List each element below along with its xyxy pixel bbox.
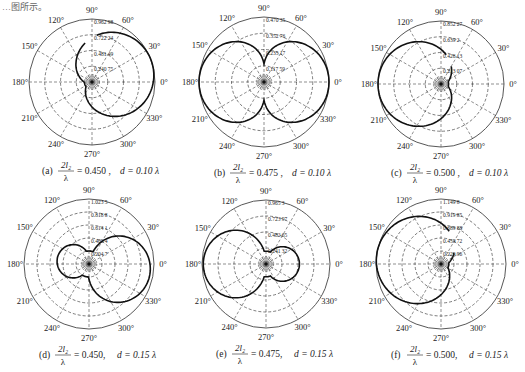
caption-value: = 0.450 ,: [77, 166, 111, 176]
ring-value-label: 0.639 2: [443, 37, 460, 43]
caption-prefix: (e): [216, 349, 227, 360]
angle-label: 300°: [294, 322, 310, 332]
angle-label: 300°: [469, 141, 485, 151]
grid-spoke: [57, 208, 90, 264]
caption-value: = 0.500,: [426, 350, 457, 360]
ring-value-label: 0.459 72: [443, 238, 463, 244]
angle-label: 270°: [81, 333, 97, 343]
angle-label: 210°: [192, 114, 208, 124]
angle-label: 270°: [433, 151, 449, 161]
angle-label: 60°: [122, 15, 134, 25]
angle-label: 300°: [470, 323, 486, 333]
ring-value-label: 1.149 8: [443, 199, 460, 205]
origin-dot: [262, 80, 266, 84]
grid-spoke: [409, 264, 442, 320]
angle-label: 210°: [369, 296, 385, 306]
angle-label: 120°: [396, 195, 412, 205]
angle-label: 120°: [221, 196, 237, 206]
grid-spoke: [92, 82, 124, 137]
ring-value-label: 0.409 4: [91, 238, 108, 244]
grid-spoke: [37, 82, 92, 114]
ring-value-label: 0.689 88: [443, 225, 463, 231]
angle-label: 240°: [221, 322, 237, 332]
grid-spoke: [385, 264, 441, 297]
angle-label: 210°: [22, 113, 38, 123]
ring-value-label: 0.723 97: [268, 216, 288, 222]
ring-value-label: 0.241 32: [268, 248, 288, 254]
angle-label: 90°: [435, 7, 447, 17]
ring-value-label: 1.023 5: [91, 199, 108, 205]
pattern-curve: [57, 236, 150, 302]
angle-label: 30°: [499, 222, 511, 232]
caption-fraction-numerator: 2l₂: [235, 343, 245, 353]
angle-label: 120°: [48, 15, 64, 25]
angle-label: 30°: [497, 43, 509, 53]
grid-spoke: [33, 264, 89, 297]
ring-value-label: 0.722 24: [94, 35, 114, 41]
origin-dot: [264, 262, 268, 266]
angle-label: 60°: [472, 195, 484, 205]
caption-fraction-numerator: 2l₂: [61, 160, 71, 170]
angle-label: 150°: [371, 43, 387, 53]
caption-spacing: d = 0.10 λ: [292, 168, 331, 178]
angle-label: 120°: [397, 17, 413, 27]
ring-value-label: 0.818 8: [91, 212, 108, 218]
origin-dot: [439, 82, 443, 86]
caption-fraction-denominator: λ: [236, 175, 241, 185]
caption-spacing: d = 0.10 λ: [120, 166, 159, 176]
angle-label: 60°: [471, 17, 483, 27]
grid-spoke: [386, 84, 441, 116]
ring-value-label: 0.852 27: [443, 21, 463, 27]
angle-label: 60°: [295, 13, 307, 23]
grid-spoke: [211, 232, 266, 264]
grid-spoke: [208, 82, 264, 115]
angle-label: 180°: [182, 77, 198, 87]
caption-spacing: d = 0.15 λ: [469, 350, 508, 360]
ring-value-label: 0.117 59: [266, 66, 285, 72]
angle-label: 150°: [17, 222, 33, 232]
angle-label: 90°: [86, 5, 98, 15]
angle-label: 180°: [359, 259, 375, 269]
angle-label: 180°: [12, 77, 28, 87]
caption-spacing: d = 0.15 λ: [117, 350, 156, 360]
angle-label: 270°: [258, 332, 274, 342]
grid-spoke: [37, 51, 92, 83]
caption-prefix: (f): [391, 350, 401, 361]
angle-label: 330°: [497, 296, 513, 306]
caption-value: = 0.475 ,: [249, 168, 283, 178]
grid-spoke: [264, 82, 320, 115]
ring-value-label: 0.482 65: [268, 232, 288, 238]
angle-label: 0°: [511, 259, 519, 269]
caption-fraction-numerator: 2l₂: [410, 162, 420, 172]
polar-chart-a: 0.240 750.481 490.722 240.962 980°30°60°…: [12, 5, 168, 183]
angle-label: 30°: [322, 40, 334, 50]
grid-spoke: [61, 27, 93, 82]
origin-dot: [439, 262, 443, 266]
angle-label: 270°: [256, 151, 272, 161]
angle-label: 270°: [84, 149, 100, 159]
caption-prefix: (d): [39, 350, 50, 361]
polar-chart-f: 0.229 960.459 720.689 880.919 851.149 80…: [359, 185, 519, 367]
angle-label: 0°: [335, 259, 343, 269]
ring-value-label: 0.352 76: [266, 33, 286, 39]
angle-label: 330°: [320, 114, 336, 124]
grid-spoke: [386, 53, 441, 85]
angle-label: 330°: [145, 296, 161, 306]
angle-label: 90°: [260, 186, 272, 196]
grid-spoke: [61, 82, 93, 137]
grid-spoke: [441, 84, 473, 139]
angle-label: 330°: [321, 296, 337, 306]
angle-label: 180°: [185, 259, 201, 269]
angle-label: 0°: [160, 77, 168, 87]
caption-fraction-numerator: 2l₂: [233, 162, 243, 172]
ring-value-label: 0.470 35: [266, 17, 286, 23]
angle-label: 90°: [83, 185, 95, 195]
angle-label: 210°: [17, 296, 33, 306]
polar-plot-figure: 0.240 750.481 490.722 240.962 980°30°60°…: [0, 0, 525, 372]
grid-spoke: [208, 50, 264, 83]
caption-value: = 0.475,: [251, 349, 282, 359]
caption-prefix: (b): [214, 168, 225, 179]
ring-value-label: 0.240 75: [94, 66, 114, 72]
caption-fraction-denominator: λ: [413, 357, 418, 367]
angle-label: 330°: [495, 115, 511, 125]
